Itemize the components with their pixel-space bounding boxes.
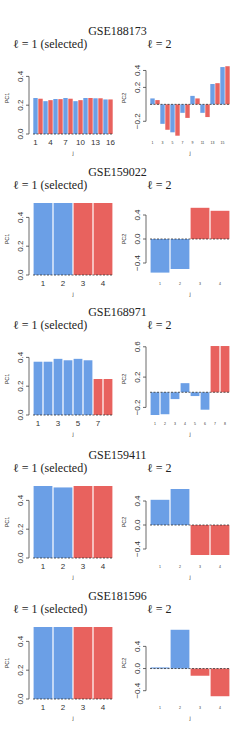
bar: [191, 669, 210, 676]
bar: [98, 98, 102, 134]
y-tick-label: 0.4: [16, 211, 25, 223]
y-axis-label: PC2: [121, 658, 127, 669]
bar: [54, 487, 73, 558]
bar: [165, 104, 169, 129]
bar: [83, 98, 87, 134]
bar: [195, 98, 199, 104]
bar: [160, 104, 164, 123]
y-tick-label: −0.2: [133, 113, 142, 129]
bar: [94, 486, 113, 558]
x-tick-label: 4: [219, 565, 221, 569]
x-tick-label: 1: [41, 279, 46, 288]
x-tick-label: 2: [164, 422, 166, 426]
bar: [108, 99, 112, 134]
pc2-bar-chart: −0.20.20.6PC212345678j: [117, 335, 232, 445]
x-tick-label: 4: [101, 279, 106, 288]
bar: [44, 362, 53, 415]
y-axis-label: PC1: [4, 374, 10, 385]
x-tick-label: 4: [48, 138, 53, 147]
y-tick-label: 0.4: [16, 351, 25, 363]
x-tick-label: 2: [61, 279, 66, 288]
x-tick-label: 7: [96, 419, 101, 428]
x-tick-label: 15: [221, 141, 225, 145]
bar: [54, 627, 73, 699]
bar: [38, 99, 42, 134]
left-subtitle: ℓ = 1 (selected): [13, 318, 87, 333]
x-tick-label: 5: [194, 422, 196, 426]
bar: [34, 486, 53, 558]
y-tick-label: 0.4: [133, 495, 142, 507]
bar: [93, 98, 97, 134]
pc2-bar-chart: −0.40.00.4PC21234j: [117, 195, 232, 305]
x-tick-label: 13: [91, 138, 100, 147]
x-axis-label: j: [188, 291, 190, 297]
bar: [211, 669, 230, 697]
pc1-bar-chart: 0.00.20.4PC11234j: [0, 195, 115, 305]
right-subtitle: ℓ = 2: [147, 461, 172, 476]
y-tick-label: 0.2: [16, 240, 25, 252]
x-tick-label: 1: [152, 141, 154, 145]
bar: [74, 627, 93, 699]
x-tick-label: 4: [184, 422, 186, 426]
bar: [78, 100, 82, 134]
bar: [221, 346, 230, 392]
y-tick-label: 0.0: [16, 693, 25, 705]
bar: [48, 100, 52, 134]
bar: [211, 346, 220, 392]
bar: [84, 360, 93, 415]
y-tick-label: 0.4: [133, 209, 142, 221]
y-tick-label: 0.0: [16, 128, 25, 140]
bar: [63, 98, 67, 134]
bar: [171, 392, 180, 399]
y-axis-label: PC2: [121, 234, 127, 245]
x-tick-label: 1: [41, 703, 46, 712]
bar: [201, 392, 210, 409]
bar: [104, 379, 113, 415]
bar: [155, 100, 159, 104]
x-axis-label: j: [71, 431, 73, 437]
x-tick-label: 3: [81, 279, 86, 288]
x-axis-label: j: [188, 431, 190, 437]
bar: [151, 667, 170, 668]
x-tick-label: 1: [36, 419, 41, 428]
bar: [190, 96, 194, 104]
x-tick-label: 9: [192, 141, 194, 145]
x-axis-label: j: [71, 291, 73, 297]
x-axis-label: j: [71, 715, 73, 721]
y-tick-label: 0.2: [16, 99, 25, 111]
x-tick-label: 4: [219, 706, 221, 710]
bar: [180, 104, 184, 112]
x-tick-label: 7: [214, 422, 216, 426]
y-tick-label: 0.4: [16, 70, 25, 82]
y-tick-label: −0.4: [133, 255, 142, 271]
panel-gse159411: GSE159411ℓ = 1 (selected)ℓ = 20.00.20.4P…: [0, 448, 235, 590]
bar: [151, 500, 170, 525]
x-tick-label: 3: [56, 419, 61, 428]
x-tick-label: 1: [159, 282, 161, 286]
pc2-bar-chart: −0.40.00.4PC21234j: [117, 619, 232, 729]
y-tick-label: 0.4: [16, 635, 25, 647]
bar: [53, 99, 57, 134]
x-tick-label: 16: [106, 138, 115, 147]
x-tick-label: 2: [179, 706, 181, 710]
bar: [175, 104, 179, 135]
bar: [170, 104, 174, 132]
bar: [33, 98, 37, 134]
bar: [94, 627, 113, 699]
bar: [74, 359, 83, 415]
y-tick-label: 0.2: [133, 81, 142, 93]
y-tick-label: 0.0: [16, 409, 25, 421]
y-tick-label: 0.0: [133, 662, 142, 674]
x-tick-label: 1: [159, 706, 161, 710]
panel-gse159022: GSE159022ℓ = 1 (selected)ℓ = 20.00.20.4P…: [0, 165, 235, 307]
y-tick-label: −0.4: [133, 682, 142, 698]
left-subtitle: ℓ = 1 (selected): [13, 602, 87, 617]
pc1-bar-chart: 0.00.20.4PC1147101316j: [0, 54, 115, 164]
x-tick-label: 11: [201, 141, 205, 145]
x-tick-label: 7: [63, 138, 68, 147]
x-tick-label: 6: [204, 422, 206, 426]
bar: [64, 360, 73, 415]
y-tick-label: 0.0: [16, 269, 25, 281]
bar: [88, 98, 92, 134]
x-tick-label: 2: [179, 565, 181, 569]
